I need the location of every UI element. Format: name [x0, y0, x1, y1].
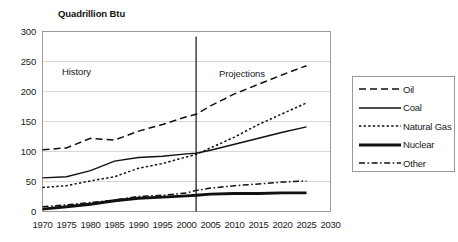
gridlines: [43, 62, 331, 182]
legend-label: Other: [403, 158, 426, 169]
legend-item-coal[interactable]: Coal: [358, 100, 422, 116]
series-line-coal: [43, 127, 307, 178]
x-tick-label: 2030: [318, 219, 344, 230]
y-tick-label: 0: [10, 206, 36, 217]
series-line-natural-gas: [43, 103, 307, 188]
y-tick-label: 150: [10, 116, 36, 127]
y-tick-label: 250: [10, 56, 36, 67]
x-tick-label: 1985: [102, 219, 128, 230]
series-line-nuclear: [43, 193, 307, 209]
legend-swatch-icon: [358, 156, 402, 170]
y-tick-label: 300: [10, 26, 36, 37]
x-tick-label: 1975: [54, 219, 80, 230]
legend-label: Oil: [403, 84, 414, 95]
legend-label: Coal: [403, 102, 422, 113]
chart-legend: OilCoalNatural GasNuclearOther: [352, 76, 455, 172]
legend-swatch-icon: [358, 101, 402, 115]
x-tick-label: 2005: [198, 219, 224, 230]
x-tick-label: 2020: [270, 219, 296, 230]
legend-label: Natural Gas: [403, 121, 452, 132]
legend-item-natural-gas[interactable]: Natural Gas: [358, 118, 452, 134]
projections-label: Projections: [219, 68, 265, 79]
x-tick-label: 1990: [126, 219, 152, 230]
legend-label: Nuclear: [403, 139, 434, 150]
x-tick-label: 1980: [78, 219, 104, 230]
x-tick-label: 2015: [246, 219, 272, 230]
legend-item-oil[interactable]: Oil: [358, 81, 414, 97]
legend-item-other[interactable]: Other: [358, 155, 426, 171]
x-tick-label: 2025: [294, 219, 320, 230]
y-tick-label: 50: [10, 176, 36, 187]
y-tick-label: 100: [10, 146, 36, 157]
x-tick-label: 2000: [174, 219, 200, 230]
x-tick-label: 2010: [222, 219, 248, 230]
energy-consumption-chart: Quadrillion Btu 050100150200250300 19701…: [0, 0, 458, 242]
x-tick-label: 1995: [150, 219, 176, 230]
y-tick-label: 200: [10, 86, 36, 97]
legend-swatch-icon: [358, 82, 402, 96]
legend-swatch-icon: [358, 119, 402, 133]
history-label: History: [62, 66, 91, 77]
series-line-oil: [43, 66, 307, 150]
legend-swatch-icon: [358, 138, 402, 152]
x-tick-label: 1970: [30, 219, 56, 230]
series-paths: [43, 66, 307, 209]
legend-item-nuclear[interactable]: Nuclear: [358, 137, 434, 153]
